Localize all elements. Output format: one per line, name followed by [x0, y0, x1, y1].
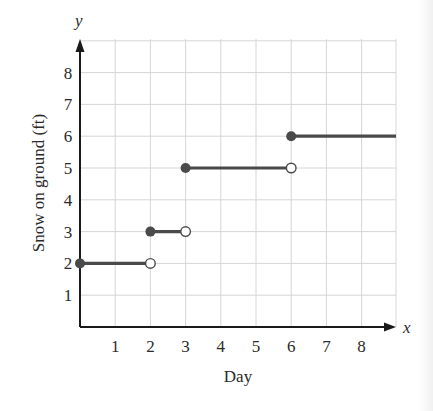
- x-tick-label: 4: [217, 337, 226, 356]
- x-tick-label: 6: [287, 337, 296, 356]
- x-tick-label: 3: [181, 337, 190, 356]
- x-tick-label: 5: [252, 337, 261, 356]
- y-axis-label: Snow on ground (ft): [29, 114, 48, 252]
- x-tick-label: 2: [146, 337, 155, 356]
- open-endpoint-icon: [146, 259, 156, 269]
- y-tick-label: 3: [64, 223, 73, 242]
- y-tick-label: 2: [64, 254, 73, 273]
- x-tick-labels: 12345678: [111, 337, 366, 356]
- x-tick-label: 8: [357, 337, 366, 356]
- x-axis-variable: x: [402, 318, 411, 337]
- y-tick-label: 6: [64, 127, 73, 146]
- closed-endpoint-icon: [286, 131, 296, 141]
- axes: [76, 39, 397, 332]
- closed-endpoint-icon: [75, 258, 85, 268]
- step-function-chart: 12345678 12345678 x y Day Snow on ground…: [0, 0, 433, 411]
- closed-endpoint-icon: [181, 163, 191, 173]
- x-axis-label: Day: [224, 367, 253, 386]
- x-axis-arrow-icon: [384, 323, 396, 332]
- y-tick-label: 7: [64, 95, 73, 114]
- y-tick-label: 8: [64, 64, 73, 83]
- y-tick-label: 4: [64, 191, 73, 210]
- open-endpoint-icon: [181, 227, 191, 237]
- x-tick-label: 7: [322, 337, 331, 356]
- open-endpoint-icon: [286, 163, 296, 173]
- y-tick-label: 5: [64, 159, 73, 178]
- grid: [80, 39, 396, 327]
- y-axis-variable: y: [73, 11, 83, 30]
- x-tick-label: 1: [111, 337, 120, 356]
- y-tick-labels: 12345678: [64, 64, 73, 306]
- y-tick-label: 1: [64, 286, 73, 305]
- closed-endpoint-icon: [145, 227, 155, 237]
